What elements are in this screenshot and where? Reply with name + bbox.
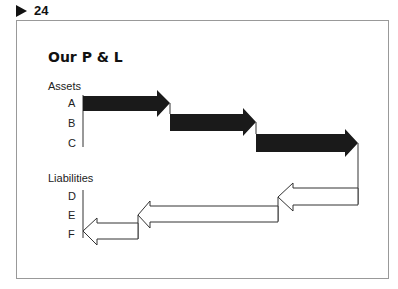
liability-arrow-e [138, 201, 278, 228]
waterfall-arrows [0, 0, 398, 289]
asset-arrow-c [256, 129, 358, 157]
asset-arrow-b [170, 108, 256, 136]
asset-arrow-a [83, 90, 170, 117]
liability-arrow-d [278, 183, 358, 211]
liability-arrow-f [83, 218, 138, 245]
